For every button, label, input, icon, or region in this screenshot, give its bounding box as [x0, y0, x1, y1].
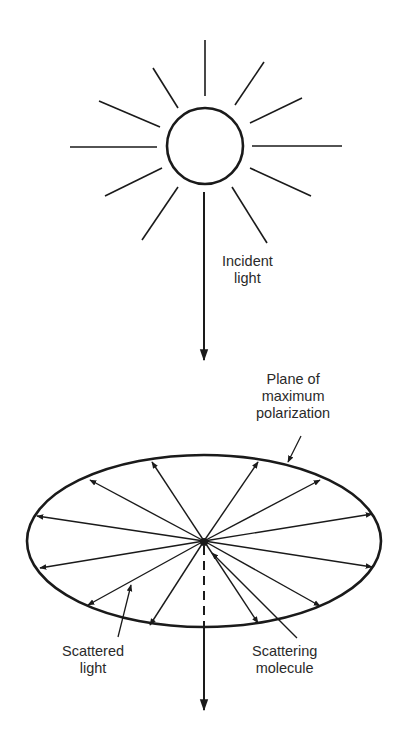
sun-ray: [142, 187, 178, 240]
scattered-light-arrow: [150, 541, 204, 625]
plane-label-line-1: Plane of: [256, 371, 330, 388]
sun-disc: [167, 108, 243, 184]
scattered-light-label: Scattered light: [62, 643, 124, 677]
sun-ray: [250, 98, 302, 123]
incident-light-label-line-2: light: [222, 270, 273, 287]
sun-icon: [70, 40, 342, 243]
scattering-molecule-label-line-2: molecule: [252, 660, 317, 677]
sun-ray: [235, 62, 264, 105]
plane-leader-line: [288, 436, 301, 462]
scattered-light-arrow: [204, 462, 258, 541]
incident-light-label-line-1: Incident: [222, 253, 273, 270]
sun-ray: [105, 168, 162, 196]
scattering-molecule-label-line-1: Scattering: [252, 643, 317, 660]
sun-ray: [232, 187, 267, 243]
plane-label-line-3: polarization: [256, 405, 330, 422]
sun-ray: [250, 168, 311, 196]
sun-ray: [99, 101, 160, 127]
scattered-light-arrow: [204, 541, 372, 567]
plane-label-line-2: maximum: [256, 388, 330, 405]
scattering-molecule-dot: [200, 538, 208, 546]
sun-rays: [70, 40, 342, 243]
scattering-molecule-label: Scattering molecule: [252, 643, 317, 677]
polarization-diagram: [0, 0, 399, 735]
plane-of-polarization-label: Plane of maximum polarization: [256, 371, 330, 422]
scattered-light-label-line-2: light: [62, 660, 124, 677]
sun-ray: [153, 68, 178, 108]
scattered-light-arrow: [152, 462, 204, 541]
scattered-light-arrow: [204, 541, 320, 606]
incident-light-label: Incident light: [222, 253, 273, 287]
scattered-light-arrow: [37, 516, 204, 541]
scattered-light-leader-line: [118, 585, 131, 637]
scattered-light-label-line-1: Scattered: [62, 643, 124, 660]
